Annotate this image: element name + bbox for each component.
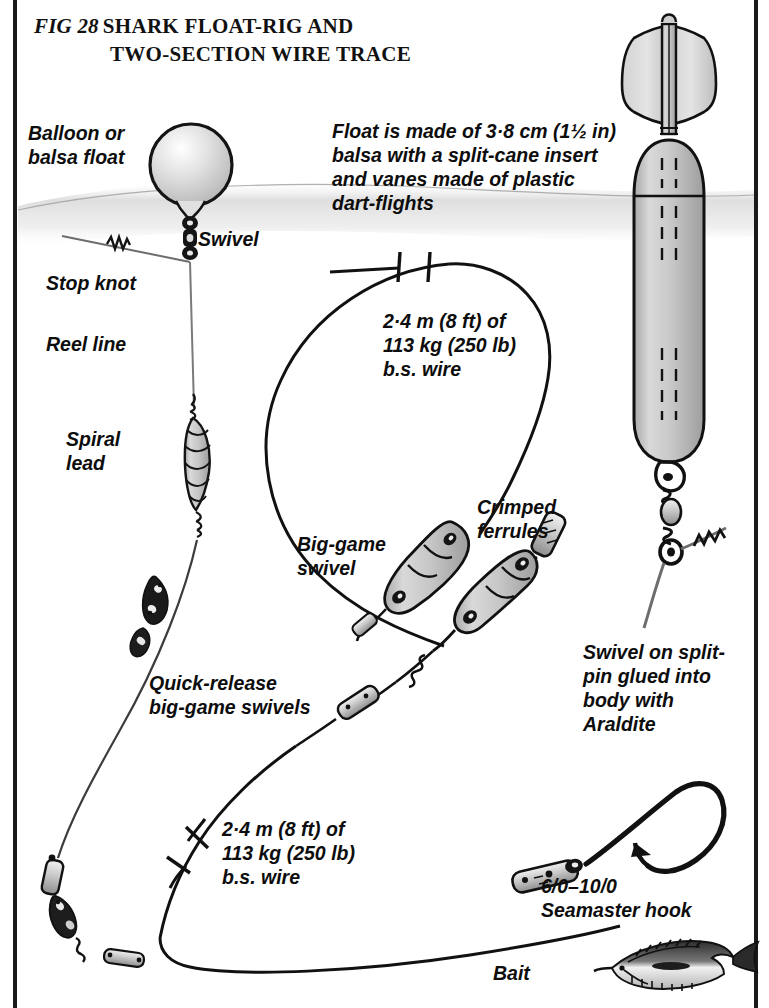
label-balloon-float: Balloon or balsa float [28,122,124,170]
label-swivel: Swivel [198,228,259,252]
measure-tick-upper-right [428,252,430,282]
label-spiral-lead: Spiral lead [66,428,120,476]
fish-eye [619,965,624,970]
lower-left-swivels [41,855,145,968]
label-hook: 6/0–10/0 Seamaster hook [541,875,692,923]
fish-tail [733,942,758,972]
label-quick-release-swivels: Quick-release big-game swivels [149,672,310,720]
bait-fish [594,939,758,991]
label-upper-wire-spec: 2·4 m (8 ft) of 113 kg (250 lb) b.s. wir… [383,310,516,382]
reel-line-upper [62,236,194,408]
label-araldite-note: Swivel on split- pin glued into body wit… [583,641,725,737]
label-stop-knot: Stop knot [46,272,136,296]
detail-stop-knot [694,530,725,546]
label-crimped-ferrules: Crimped ferrules [477,496,556,544]
label-bait: Bait [493,962,530,986]
label-reel-line: Reel line [46,333,126,357]
label-big-game-swivel: Big-game swivel [297,533,386,581]
spiral-lead [185,394,210,537]
figure-page: FIG 28 SHARK FLOAT-RIG AND TWO-SECTION W… [0,0,769,1008]
balsa-float-detail [622,15,726,629]
label-lower-wire-spec: 2·4 m (8 ft) of 113 kg (250 lb) b.s. wir… [222,818,355,890]
seamaster-hook [586,784,724,872]
float-swivel-chain [182,216,198,260]
diagonal-wire-assembly [296,651,433,746]
swivel-barrel [661,499,681,525]
label-float-note: Float is made of 3·8 cm (1½ in) balsa wi… [332,120,616,216]
lower-wire-coil [76,938,85,962]
